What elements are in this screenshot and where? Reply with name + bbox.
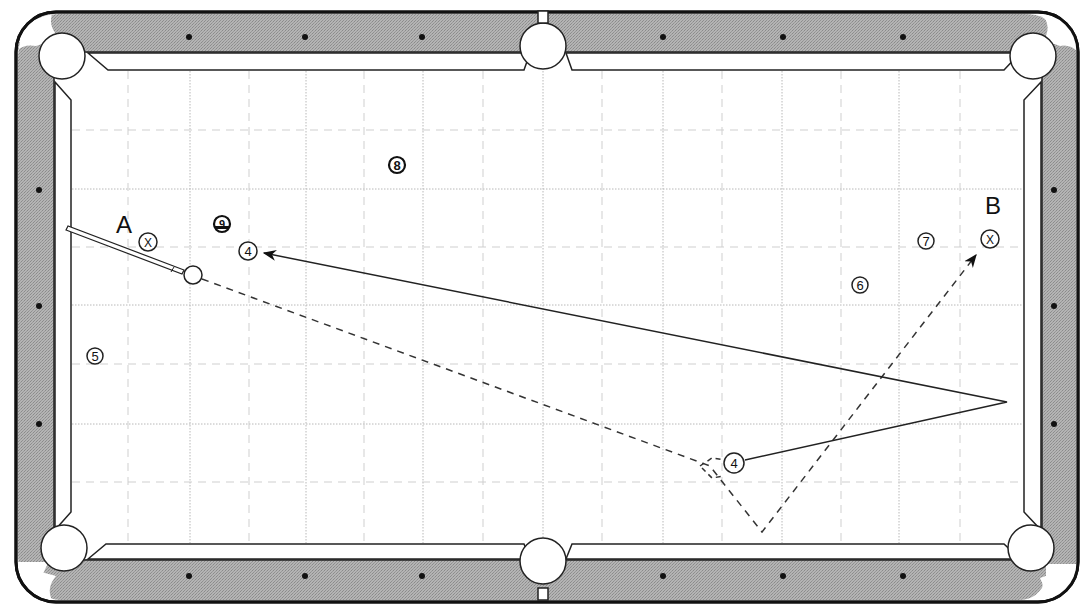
svg-text:5: 5 — [91, 349, 98, 364]
pool-table-diagram: 4 4 5 6 7 8 9 X — [0, 0, 1082, 611]
marker-a: X — [139, 233, 157, 251]
top-right-cushion — [566, 53, 1020, 70]
ball-9: 9 — [214, 216, 230, 232]
pocket-bottom-middle — [520, 538, 566, 584]
svg-text:7: 7 — [922, 234, 929, 249]
ball-5: 5 — [87, 348, 103, 364]
top-left-cushion — [88, 53, 530, 70]
right-rail — [1042, 44, 1078, 564]
svg-text:8: 8 — [393, 158, 400, 173]
svg-text:4: 4 — [244, 244, 251, 259]
bottom-left-cushion — [88, 544, 530, 559]
svg-text:6: 6 — [856, 278, 863, 293]
right-cushion — [1024, 82, 1041, 530]
ball-6: 6 — [852, 277, 868, 293]
bottom-right-cushion — [566, 544, 1020, 559]
cloth — [72, 71, 1023, 543]
pocket-bottom-left — [41, 525, 87, 571]
left-rail — [18, 42, 54, 562]
ball-8: 8 — [389, 157, 405, 173]
label-a: A — [116, 211, 132, 238]
label-b: B — [985, 192, 1001, 219]
svg-text:X: X — [144, 236, 152, 250]
ball-7: 7 — [918, 233, 934, 249]
ball-4-original: 4 — [239, 242, 257, 260]
pocket-top-right — [1010, 33, 1056, 79]
svg-text:X: X — [986, 233, 994, 247]
svg-text:9: 9 — [219, 218, 225, 230]
pocket-bottom-right — [1008, 525, 1054, 571]
cue-ball — [184, 266, 202, 284]
marker-b: X — [981, 230, 999, 248]
left-cushion — [55, 82, 71, 530]
pocket-top-left — [39, 33, 85, 79]
ball-4-target: 4 — [724, 453, 744, 473]
pocket-top-middle — [520, 23, 566, 69]
svg-text:4: 4 — [730, 456, 737, 471]
